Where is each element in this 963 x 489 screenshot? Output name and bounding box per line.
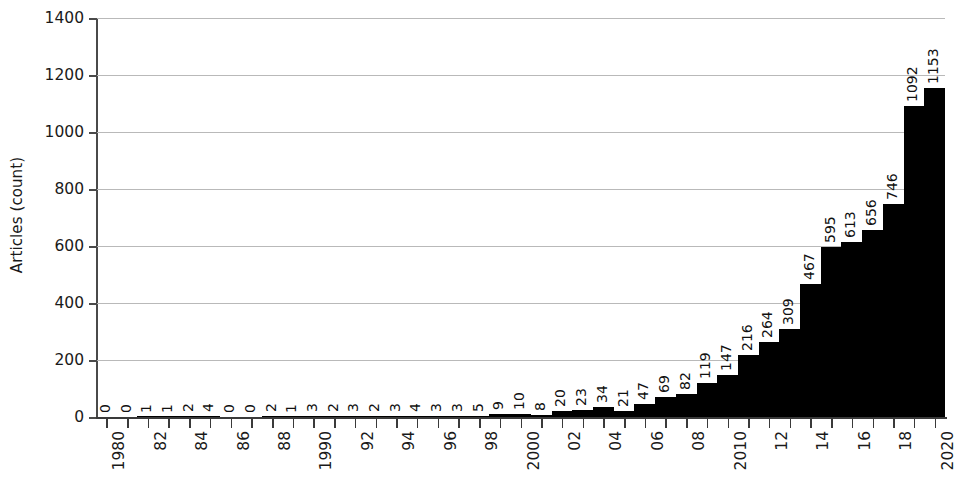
bar-value-label: 3 (346, 403, 360, 412)
bar-value-label: 119 (698, 352, 712, 379)
x-axis-tick-label: 86 (237, 431, 253, 451)
bar-value-label: 216 (740, 325, 754, 352)
x-axis-tick-mark (624, 419, 626, 428)
x-axis-tick-label: 1980 (112, 431, 128, 470)
bar-value-label: 3 (429, 403, 443, 412)
x-axis-tick-mark (376, 419, 378, 428)
bar-value-label: 613 (843, 212, 857, 239)
x-axis-tick-mark (500, 419, 502, 428)
bar-value-label: 264 (760, 311, 774, 338)
x-axis-tick-mark (189, 419, 191, 428)
x-axis-tick-mark (748, 419, 750, 428)
bar-value-label: 1153 (926, 49, 940, 85)
y-axis-tick-labels: 0200400600800100012001400 (34, 0, 92, 430)
bar-value-label: 309 (781, 298, 795, 325)
x-axis-tick-label: 96 (444, 431, 460, 451)
x-axis-tick-mark (106, 419, 108, 428)
bar-value-label: 0 (119, 404, 133, 413)
x-axis-tick-mark (458, 419, 460, 428)
y-axis-tick-label: 600 (54, 237, 84, 255)
x-axis-tick-mark (603, 419, 605, 428)
bar-value-label: 5 (471, 403, 485, 412)
x-axis-tick-mark (790, 419, 792, 428)
bar (634, 404, 655, 417)
bar-value-label: 1 (284, 404, 298, 413)
x-axis-tick-mark (396, 419, 398, 428)
x-axis-tick-mark (521, 419, 523, 428)
x-axis-tick-mark (541, 419, 543, 428)
x-axis-tick-label: 98 (485, 431, 501, 451)
bar-value-label: 2 (264, 404, 278, 413)
bar (924, 88, 945, 417)
x-axis-tick-label: 88 (278, 431, 294, 451)
bar (697, 383, 718, 417)
bar-value-label: 20 (553, 389, 567, 407)
x-axis-tick-label: 18 (899, 431, 915, 451)
x-axis-tick-mark (914, 419, 916, 428)
x-axis-tick-label: 2010 (734, 431, 750, 470)
x-axis-tick-mark (355, 419, 357, 428)
x-axis-tick-mark (313, 419, 315, 428)
bar (883, 204, 904, 417)
x-axis-tick-mark (769, 419, 771, 428)
x-axis-tick-mark (272, 419, 274, 428)
bar-value-label: 47 (636, 382, 650, 400)
y-axis-tick-label: 800 (54, 180, 84, 198)
y-axis-tick-label: 0 (74, 408, 84, 426)
x-axis-tick-mark (210, 419, 212, 428)
bar-value-label: 23 (574, 389, 588, 407)
x-axis-tick-mark (935, 419, 937, 428)
bar-value-label: 82 (678, 372, 692, 390)
x-axis-tick-mark (293, 419, 295, 428)
bar-value-label: 1 (139, 404, 153, 413)
x-axis-tick-labels: 1980828486881990929496982000020406082010… (96, 431, 945, 489)
bar-chart: Articles (count) 02004006008001000120014… (0, 0, 963, 489)
x-axis-tick-label: 1990 (319, 431, 335, 470)
bar (738, 355, 759, 417)
x-axis-tick-mark (686, 419, 688, 428)
bar (779, 329, 800, 417)
x-axis-tick-mark (645, 419, 647, 428)
bar-value-label: 1 (160, 404, 174, 413)
bar-value-label: 2 (326, 404, 340, 413)
bar-value-label: 656 (864, 199, 878, 226)
x-axis-tick-label: 82 (154, 431, 170, 451)
x-axis-tick-mark (231, 419, 233, 428)
bar-value-label: 4 (408, 403, 422, 412)
bar-value-label: 0 (243, 404, 257, 413)
bar-value-label: 8 (533, 402, 547, 411)
x-axis-tick-label: 2000 (527, 431, 543, 470)
bar-value-label: 1092 (905, 66, 919, 102)
bar-value-label: 10 (512, 392, 526, 410)
x-axis-tick-mark (728, 419, 730, 428)
x-axis-tick-mark (417, 419, 419, 428)
bar-value-label: 2 (181, 404, 195, 413)
y-axis-title-text: Articles (count) (8, 157, 26, 273)
x-axis-tick-label: 06 (651, 431, 667, 451)
x-axis-tick-mark (438, 419, 440, 428)
x-axis-tick-marks (96, 419, 945, 431)
x-axis-tick-mark (893, 419, 895, 428)
bar-value-label: 0 (222, 404, 236, 413)
bar (841, 242, 862, 417)
bar-value-label: 3 (305, 403, 319, 412)
bar (655, 397, 676, 417)
x-axis-tick-mark (127, 419, 129, 428)
x-axis-tick-label: 2020 (941, 431, 957, 470)
bar-value-label: 3 (388, 403, 402, 412)
x-axis-tick-label: 04 (609, 431, 625, 451)
bar (800, 284, 821, 417)
y-axis-title: Articles (count) (0, 0, 34, 430)
x-axis-tick-mark (810, 419, 812, 428)
x-axis-tick-mark (148, 419, 150, 428)
x-axis-tick-label: 84 (195, 431, 211, 451)
y-axis-tick-label: 400 (54, 294, 84, 312)
x-axis-tick-label: 92 (361, 431, 377, 451)
x-axis-tick-mark (562, 419, 564, 428)
x-axis-tick-label: 12 (775, 431, 791, 451)
x-axis-tick-label: 94 (402, 431, 418, 451)
bar-value-label: 746 (885, 174, 899, 201)
bar-value-label: 0 (98, 404, 112, 413)
bar-value-label: 34 (595, 385, 609, 403)
x-axis-tick-label: 08 (692, 431, 708, 451)
